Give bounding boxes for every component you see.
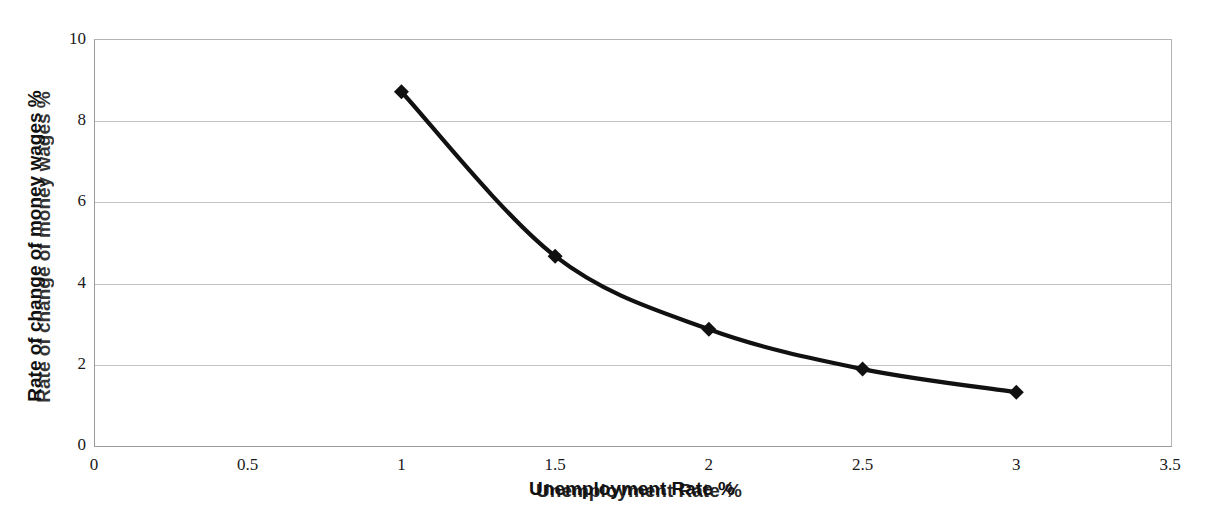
x-axis-tick-label: 0.5	[237, 455, 258, 475]
x-axis-title-wrapper: Unemployment Rate % Unemployment Rate %	[94, 478, 1170, 512]
x-axis-tick-label: 0	[90, 455, 99, 475]
gridline	[95, 121, 1171, 122]
x-axis-tick-label: 3	[1012, 455, 1021, 475]
x-axis-tick-label: 1	[397, 455, 406, 475]
x-axis-tick-label: 1.5	[545, 455, 566, 475]
x-axis-tick-label: 2.5	[852, 455, 873, 475]
y-axis-title: Rate of change of money wages %	[24, 26, 46, 466]
y-axis-title-wrapper: Rate of change of money wages % Rate of …	[0, 0, 64, 500]
gridline	[95, 365, 1171, 366]
x-axis-tick-label: 3.5	[1159, 455, 1180, 475]
x-axis-title: Unemployment Rate %	[94, 478, 1170, 500]
gridline	[95, 202, 1171, 203]
chart-figure: 0246810 00.511.522.533.5 Rate of change …	[0, 0, 1212, 525]
plot-area	[94, 39, 1172, 447]
x-axis-tick-label: 2	[705, 455, 714, 475]
gridline	[95, 284, 1171, 285]
